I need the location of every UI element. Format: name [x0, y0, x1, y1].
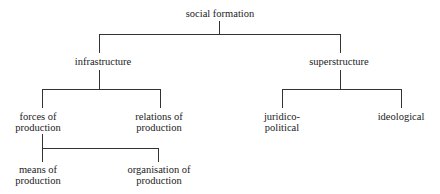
connector [42, 148, 43, 162]
connector [42, 89, 43, 108]
label-line: production [135, 122, 183, 133]
node-infrastructure: infrastructure [75, 56, 132, 67]
node-superstructure: superstructure [309, 56, 368, 67]
connector [158, 148, 159, 162]
connector [42, 134, 43, 148]
connector [42, 148, 159, 149]
connector [99, 34, 341, 35]
connector [99, 70, 100, 89]
connector [99, 34, 100, 53]
connector [340, 34, 341, 53]
connector [219, 21, 220, 34]
node-juridico-political: juridico- political [264, 111, 300, 133]
label-line: production [15, 122, 61, 133]
node-forces-of-production: forces of production [15, 111, 61, 133]
label-line: production [15, 175, 61, 186]
node-relations-of-production: relations of production [135, 111, 183, 133]
connector [340, 70, 341, 89]
label-line: organisation of [127, 164, 190, 175]
label-line: means of [15, 164, 61, 175]
label-line: relations of [135, 111, 183, 122]
label-line: production [127, 175, 190, 186]
node-social-formation: social formation [186, 8, 255, 19]
connector [160, 89, 161, 108]
node-means-of-production: means of production [15, 164, 61, 186]
label-line: political [264, 122, 300, 133]
node-organisation-of-production: organisation of production [127, 164, 190, 186]
connector [282, 89, 402, 90]
node-ideological: ideological [378, 111, 425, 122]
label-line: juridico- [264, 111, 300, 122]
connector [42, 89, 161, 90]
connector [282, 89, 283, 108]
label-line: forces of [15, 111, 61, 122]
connector [401, 89, 402, 108]
